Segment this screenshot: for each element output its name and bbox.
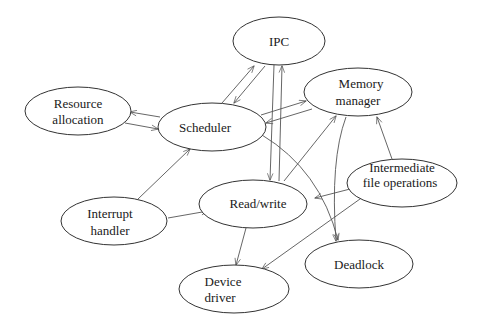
node-ipc: IPC [233, 17, 325, 65]
node-resource-allocation: Resource allocation [25, 87, 131, 135]
node-intermediate-file-operations: Intermediate file operations [347, 159, 457, 207]
node-label-line-1: Resource [54, 96, 103, 111]
node-scheduler: Scheduler [158, 103, 266, 151]
edge-memory-manager-to-deadlock [334, 117, 346, 241]
edge-read-write-to-device-driver [236, 228, 246, 265]
node-label-line-2: file operations [363, 175, 438, 190]
node-label-line-1: Memory [339, 76, 384, 91]
node-device-driver: Device driver [179, 265, 289, 313]
node-label-line-2: manager [336, 93, 381, 108]
edge-interrupt-handler-to-scheduler [138, 149, 190, 199]
node-label-line-2: handler [91, 223, 131, 238]
node-label-line-1: Intermediate [369, 160, 435, 175]
node-label: Read/write [229, 196, 286, 211]
node-read-write: Read/write [199, 180, 307, 228]
edge-read-write-to-ipc [279, 66, 282, 181]
os-module-dependency-diagram: IPC Resource allocation Scheduler Memory… [0, 0, 479, 329]
node-label-line-2: driver [204, 290, 236, 305]
node-memory-manager: Memory manager [304, 68, 412, 116]
node-label-line-1: Interrupt [87, 206, 133, 221]
node-label: Deadlock [334, 257, 384, 272]
edge-intermediate-file-operations-to-memory-manager [377, 117, 392, 159]
edge-scheduler-to-resource-allocation [130, 112, 160, 117]
edge-read-write-to-memory-manager [284, 116, 336, 181]
node-label: Scheduler [179, 120, 232, 135]
node-label: IPC [269, 34, 289, 49]
node-deadlock: Deadlock [305, 240, 413, 288]
edge-ipc-to-read-write [270, 65, 274, 180]
node-label-line-2: allocation [52, 112, 104, 127]
node-label-line-1: Device [205, 274, 242, 289]
edge-resource-allocation-to-scheduler [125, 123, 158, 129]
node-interrupt-handler: Interrupt handler [61, 197, 167, 245]
